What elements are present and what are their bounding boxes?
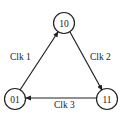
state-node-11: 11 xyxy=(97,89,118,110)
state-diagram: Clk 1 Clk 2 Clk 3 10 01 11 xyxy=(0,0,131,119)
edge-label-clk1: Clk 1 xyxy=(10,52,31,62)
state-node-label: 11 xyxy=(102,95,111,105)
state-node-label: 10 xyxy=(59,19,69,29)
state-node-10: 10 xyxy=(54,13,75,34)
state-node-label: 01 xyxy=(10,95,20,105)
edge-label-clk3: Clk 3 xyxy=(54,100,75,110)
edge-label-clk2: Clk 2 xyxy=(90,52,111,62)
state-node-01: 01 xyxy=(5,89,26,110)
